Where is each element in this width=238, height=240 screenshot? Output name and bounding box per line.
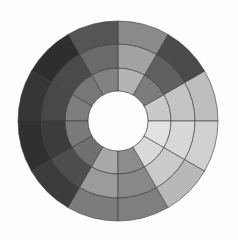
bullseye-diagram [0,0,238,240]
center-hole [88,91,148,151]
